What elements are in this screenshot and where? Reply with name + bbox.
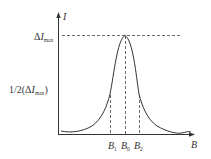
- peak-label: ΔImax: [34, 31, 54, 43]
- x-axis-label: B: [191, 139, 197, 150]
- b1-label: B1: [108, 140, 117, 152]
- b2-label: B2: [134, 140, 143, 152]
- resonance-curve: [61, 36, 191, 134]
- y-axis-arrow-icon: [56, 12, 60, 18]
- b0-label: B0: [121, 140, 130, 152]
- x-axis-arrow-icon: [189, 132, 195, 136]
- resonance-diagram: I B ΔImax 1/2(ΔImax) B1 B0 B2: [0, 0, 211, 159]
- y-axis-label: I: [62, 11, 67, 22]
- half-max-label: 1/2(ΔImax): [9, 84, 48, 96]
